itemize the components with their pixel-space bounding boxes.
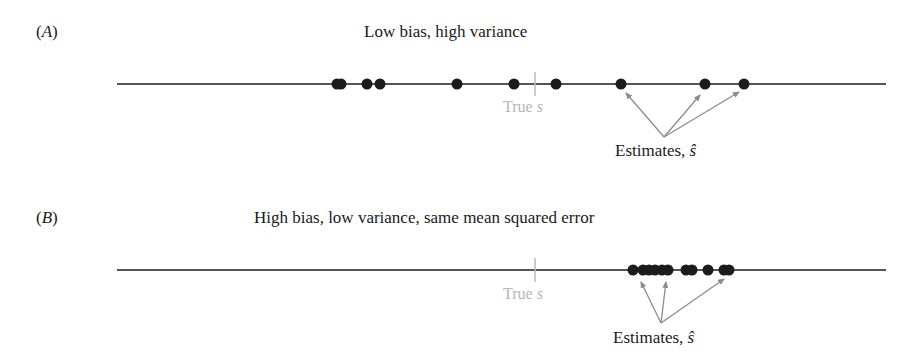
- arrow-icon: [661, 282, 666, 323]
- panel-b-number-line: [117, 258, 886, 323]
- true-value-label-a: True s: [503, 98, 543, 116]
- estimate-dot: [628, 265, 639, 276]
- estimate-dot: [700, 79, 711, 90]
- estimate-dot: [375, 79, 386, 90]
- true-value-label-b: True s: [503, 285, 543, 303]
- arrow-icon: [661, 279, 724, 323]
- estimate-dot: [739, 79, 750, 90]
- arrow-icon: [664, 92, 739, 137]
- estimates-label-a: Estimates, ŝ: [615, 141, 696, 161]
- estimate-dot: [724, 265, 735, 276]
- estimate-dot: [663, 265, 674, 276]
- number-line-figure: [0, 0, 918, 364]
- estimate-dot: [616, 79, 627, 90]
- panel-a-number-line: [117, 72, 886, 137]
- estimates-label-b: Estimates, ŝ: [613, 328, 694, 348]
- estimate-dot: [452, 79, 463, 90]
- estimate-dot: [687, 265, 698, 276]
- estimate-dot: [362, 79, 373, 90]
- arrow-icon: [626, 93, 664, 137]
- estimate-dot: [703, 265, 714, 276]
- estimate-dot: [551, 79, 562, 90]
- arrow-icon: [641, 282, 661, 323]
- arrow-icon: [664, 95, 700, 137]
- estimate-dot: [509, 79, 520, 90]
- estimate-dot: [336, 79, 347, 90]
